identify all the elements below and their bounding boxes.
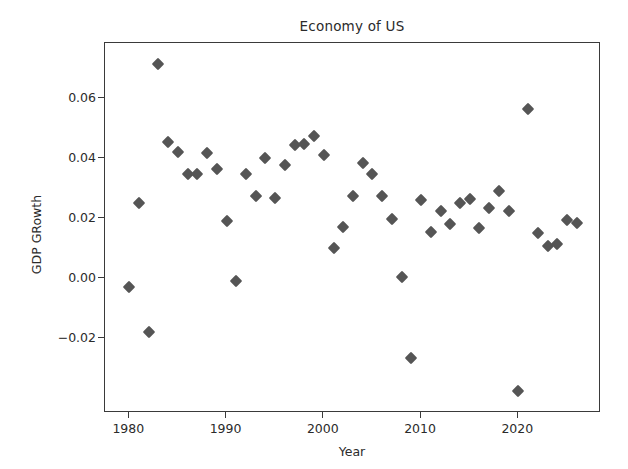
- y-tick-mark: [98, 217, 104, 218]
- scatter-point: [201, 147, 214, 160]
- x-tick-label: 2010: [385, 421, 455, 436]
- y-axis-label: GDP GRowth: [29, 160, 44, 310]
- x-tick-label: 1990: [191, 421, 261, 436]
- plot-area: [104, 42, 600, 412]
- y-tick-label: 0.04: [36, 150, 96, 165]
- scatter-point: [434, 204, 447, 217]
- scatter-point: [347, 189, 360, 202]
- x-tick-mark: [128, 412, 129, 418]
- scatter-point: [172, 146, 185, 159]
- scatter-point: [356, 156, 369, 169]
- scatter-point: [502, 204, 515, 217]
- scatter-point: [162, 135, 175, 148]
- scatter-point: [317, 149, 330, 162]
- scatter-point: [366, 168, 379, 181]
- x-tick-mark: [322, 412, 323, 418]
- y-tick-mark: [98, 157, 104, 158]
- x-tick-label: 2000: [288, 421, 358, 436]
- scatter-point: [483, 201, 496, 214]
- x-tick-label: 2020: [482, 421, 552, 436]
- chart-figure: Economy of US −0.020.000.020.040.06 1980…: [0, 0, 628, 469]
- scatter-point: [269, 192, 282, 205]
- scatter-point: [259, 152, 272, 165]
- scatter-point: [308, 129, 321, 142]
- x-tick-mark: [517, 412, 518, 418]
- scatter-point: [405, 351, 418, 364]
- y-tick-label: 0.02: [36, 210, 96, 225]
- scatter-point: [210, 162, 223, 175]
- scatter-point: [133, 197, 146, 210]
- scatter-point: [249, 189, 262, 202]
- scatter-point: [240, 168, 253, 181]
- x-tick-mark: [420, 412, 421, 418]
- y-tick-label: −0.02: [36, 330, 96, 345]
- y-tick-mark: [98, 337, 104, 338]
- scatter-point: [444, 218, 457, 231]
- x-axis-label: Year: [104, 444, 600, 459]
- y-tick-label: 0.06: [36, 90, 96, 105]
- x-tick-mark: [225, 412, 226, 418]
- y-tick-label: 0.00: [36, 270, 96, 285]
- scatter-point: [142, 326, 155, 339]
- scatter-point: [376, 189, 389, 202]
- scatter-point: [191, 168, 204, 181]
- scatter-point: [220, 215, 233, 228]
- scatter-point: [493, 185, 506, 198]
- scatter-point: [395, 270, 408, 283]
- scatter-point: [386, 213, 399, 226]
- scatter-point: [152, 58, 165, 71]
- y-tick-mark: [98, 277, 104, 278]
- scatter-point: [473, 221, 486, 234]
- y-tick-mark: [98, 97, 104, 98]
- scatter-point: [512, 384, 525, 397]
- scatter-point: [327, 242, 340, 255]
- scatter-point: [298, 138, 311, 151]
- scatter-point: [531, 227, 544, 240]
- scatter-point: [337, 221, 350, 234]
- scatter-point: [415, 194, 428, 207]
- scatter-point: [230, 275, 243, 288]
- scatter-point: [279, 159, 292, 172]
- chart-title: Economy of US: [104, 18, 600, 34]
- scatter-point: [123, 281, 136, 294]
- scatter-point: [424, 225, 437, 238]
- x-tick-label: 1980: [93, 421, 163, 436]
- scatter-point: [551, 238, 564, 251]
- scatter-point: [522, 103, 535, 116]
